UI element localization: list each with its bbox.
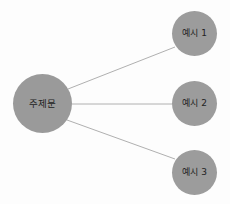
edge-center-to-example-1 bbox=[68, 47, 175, 89]
node-topic-sentence[interactable]: 주제문 bbox=[13, 74, 72, 133]
node-example-2[interactable]: 예시 2 bbox=[172, 81, 217, 126]
mind-map-diagram: 주제문 예시 1 예시 2 예시 3 bbox=[0, 0, 230, 204]
edge-center-to-example-3 bbox=[67, 120, 175, 159]
node-example-1[interactable]: 예시 1 bbox=[172, 11, 217, 56]
node-topic-sentence-label: 주제문 bbox=[29, 99, 57, 109]
node-example-2-label: 예시 2 bbox=[182, 99, 207, 108]
node-example-1-label: 예시 1 bbox=[182, 29, 207, 38]
node-example-3[interactable]: 예시 3 bbox=[172, 150, 217, 195]
node-example-3-label: 예시 3 bbox=[182, 168, 207, 177]
